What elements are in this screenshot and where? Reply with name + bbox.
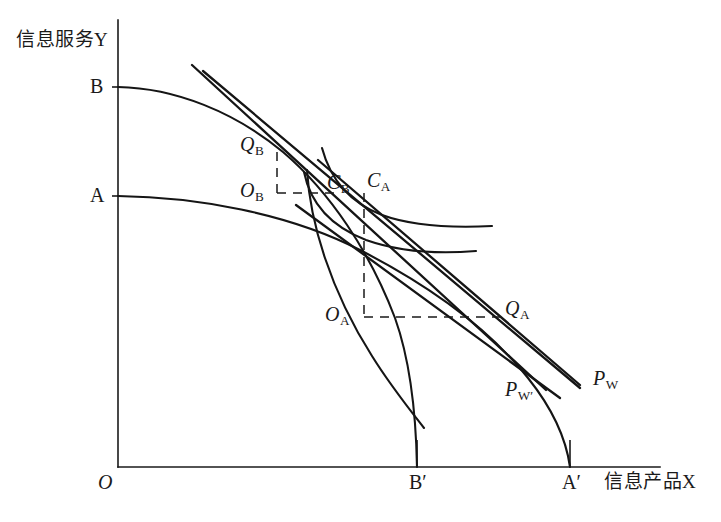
- figure-canvas: 信息服务Y 信息产品X O B A B′ A′ QB OB CB CA OA Q…: [0, 0, 721, 522]
- x-axis-label: 信息产品X: [604, 472, 696, 491]
- price-sub-PW-prime: W′: [518, 388, 533, 403]
- y-tick-label-A: A: [90, 185, 104, 205]
- price-line-PW-prime: [192, 65, 546, 390]
- point-label-QB: QB: [240, 134, 263, 154]
- x-tick-label-B-prime: B′: [409, 472, 427, 492]
- ppf-curves-group: [118, 87, 570, 467]
- point-label-OB: OB: [240, 180, 263, 200]
- guide-lines-group: [277, 152, 503, 317]
- diagram-svg: [0, 0, 721, 522]
- y-axis-label: 信息服务Y: [16, 30, 108, 49]
- point-sub-QB: B: [255, 143, 264, 158]
- price-line-PW: [203, 71, 580, 388]
- price-line-trade-A: [318, 160, 580, 385]
- price-line-label-PW: PW: [593, 368, 618, 388]
- y-tick-label-B: B: [90, 76, 103, 96]
- point-sub-OB: B: [255, 189, 264, 204]
- point-base-QB: Q: [240, 133, 254, 155]
- point-label-OA: OA: [325, 304, 349, 324]
- ppf-curve-B: [118, 87, 417, 467]
- point-sub-CB: B: [341, 181, 350, 196]
- point-label-CB: CB: [327, 172, 349, 192]
- point-base-QA: Q: [505, 297, 519, 319]
- price-lines-group: [192, 65, 580, 398]
- origin-label: O: [98, 472, 112, 492]
- price-sub-PW: W: [606, 377, 618, 392]
- x-tick-label-A-prime: A′: [562, 472, 581, 492]
- point-sub-CA: A: [381, 179, 391, 194]
- point-base-CB: C: [327, 171, 340, 193]
- ppf-curve-A: [118, 196, 570, 467]
- point-label-QA: QA: [505, 298, 529, 318]
- price-base-PW-prime: P: [505, 378, 517, 400]
- point-sub-QA: A: [520, 307, 530, 322]
- point-base-CA: C: [367, 169, 380, 191]
- point-label-CA: CA: [367, 170, 390, 190]
- point-sub-OA: A: [340, 313, 350, 328]
- price-base-PW: P: [593, 367, 605, 389]
- point-base-OB: O: [240, 179, 254, 201]
- price-line-label-PW-prime: PW′: [505, 379, 533, 399]
- point-base-OA: O: [325, 303, 339, 325]
